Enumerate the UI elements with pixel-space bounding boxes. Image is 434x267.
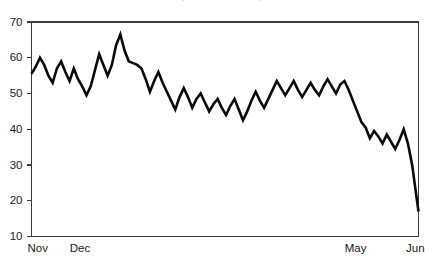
y-axis-tick-label: 30 xyxy=(10,159,23,171)
axes xyxy=(32,22,420,237)
y-axis-tick-labels: 10203040506070 xyxy=(10,16,23,243)
y-axis-ticks xyxy=(27,22,32,237)
y-axis-tick-label: 60 xyxy=(10,51,23,63)
x-axis-tick-label: Nov xyxy=(28,242,49,254)
y-axis-tick-label: 20 xyxy=(10,194,23,206)
plot-area: 10203040506070 NovDecMayJun xyxy=(0,0,434,267)
data-series-line xyxy=(32,35,419,212)
y-axis-tick-label: 10 xyxy=(10,230,23,242)
line-chart-figure: Analysts from Forecasting... 10203040506… xyxy=(0,0,434,267)
x-axis-tick-label: May xyxy=(345,242,367,254)
y-axis-tick-label: 70 xyxy=(10,16,23,28)
x-axis-tick-label: Jun xyxy=(406,242,425,254)
y-axis-tick-label: 50 xyxy=(10,87,23,99)
y-axis-tick-label: 40 xyxy=(10,123,23,135)
x-axis-tick-label: Dec xyxy=(70,242,91,254)
x-axis-tick-labels: NovDecMayJun xyxy=(28,242,425,254)
